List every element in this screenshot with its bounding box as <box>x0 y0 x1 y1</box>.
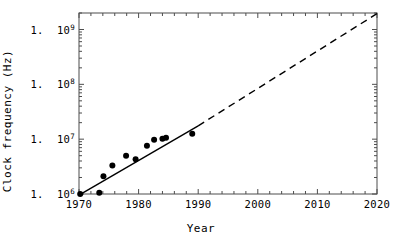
x-tick-label: 2000 <box>245 198 272 210</box>
y-tick-label: 1. 108 <box>20 78 75 90</box>
data-point <box>96 190 102 196</box>
data-point <box>163 135 169 141</box>
x-tick-label: 2010 <box>304 198 331 210</box>
data-point <box>189 131 195 137</box>
data-point <box>133 156 139 162</box>
x-tick-label: 2020 <box>364 198 391 210</box>
y-axis-label: Clock frequency (Hz) <box>0 0 16 242</box>
y-tick-label: 1. 107 <box>20 133 75 145</box>
x-tick-label: 1990 <box>185 198 212 210</box>
data-point <box>77 191 83 197</box>
data-point <box>109 163 115 169</box>
data-point <box>123 153 129 159</box>
y-tick-label: 1. 109 <box>20 24 75 36</box>
data-point <box>144 143 150 149</box>
data-point <box>100 173 106 179</box>
x-axis-label: Year <box>0 222 402 235</box>
data-point <box>151 137 157 143</box>
y-tick-label: 1. 106 <box>20 188 75 200</box>
x-tick-label: 1980 <box>125 198 152 210</box>
chart-figure: Clock frequency (Hz) Year 19701980199020… <box>0 0 402 242</box>
